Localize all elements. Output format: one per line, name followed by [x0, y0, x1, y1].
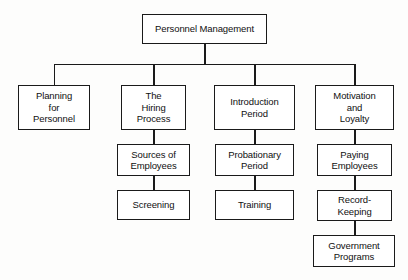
node-motivation-and-loyalty[interactable]: Motivation and Loyalty: [315, 85, 394, 130]
node-screening[interactable]: Screening: [117, 190, 190, 220]
connector-branch4-child1-to-child2: [354, 176, 355, 190]
node-label: The Hiring Process: [122, 90, 185, 125]
node-label: Motivation and Loyalty: [316, 90, 393, 125]
connector-branch2-to-child1: [153, 130, 154, 144]
node-label: Probationary Period: [216, 149, 293, 172]
node-label: Sources of Employees: [118, 149, 189, 172]
node-paying-employees[interactable]: Paying Employees: [317, 144, 392, 176]
node-label: Personnel Management: [143, 23, 266, 35]
connector-branch3-child1-to-child2: [254, 176, 255, 190]
connector-branch2-child1-to-child2: [153, 176, 154, 190]
node-government-programs[interactable]: Government Programs: [313, 235, 395, 267]
connector-drop-branch3: [254, 64, 255, 85]
node-planning-for-personnel[interactable]: Planning for Personnel: [18, 85, 90, 130]
connector-branch4-to-child1: [354, 130, 355, 144]
connector-root-stem: [204, 44, 205, 64]
node-label: Paying Employees: [318, 149, 391, 172]
node-the-hiring-process[interactable]: The Hiring Process: [121, 85, 186, 130]
node-label: Introduction Period: [215, 96, 294, 119]
connector-level1-bar: [54, 64, 356, 65]
connector-branch4-child2-to-child3: [354, 221, 355, 235]
node-label: Record- Keeping: [318, 194, 391, 217]
connector-drop-branch4: [354, 64, 355, 85]
node-record-keeping[interactable]: Record- Keeping: [317, 190, 392, 221]
connector-drop-branch1: [54, 64, 55, 85]
node-introduction-period[interactable]: Introduction Period: [214, 85, 295, 130]
node-personnel-management[interactable]: Personnel Management: [142, 14, 267, 44]
node-training[interactable]: Training: [215, 190, 294, 220]
connector-branch3-to-child1: [254, 130, 255, 144]
org-chart-diagram: Personnel Management Planning for Person…: [0, 0, 408, 280]
node-label: Training: [216, 199, 293, 211]
node-sources-of-employees[interactable]: Sources of Employees: [117, 144, 190, 176]
node-probationary-period[interactable]: Probationary Period: [215, 144, 294, 176]
node-label: Government Programs: [314, 240, 394, 263]
node-label: Planning for Personnel: [19, 90, 89, 125]
node-label: Screening: [118, 199, 189, 211]
connector-drop-branch2: [153, 64, 154, 85]
